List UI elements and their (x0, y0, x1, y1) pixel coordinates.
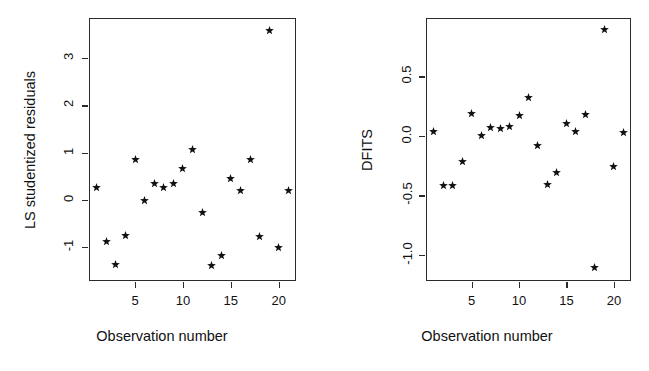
y-axis-title-right: DFITS (359, 129, 375, 171)
data-point (178, 164, 187, 173)
x-axis-title-left: Observation number (0, 328, 324, 344)
plot-frame-right (426, 18, 631, 281)
y-tick-label: 0.0 (396, 127, 416, 142)
y-tick-label: -0.5 (396, 186, 416, 201)
data-point (284, 186, 293, 195)
data-point (207, 261, 216, 270)
data-point (102, 237, 111, 246)
data-point (111, 260, 120, 269)
figure-canvas: 5101520-10123 Observation number LS stud… (0, 0, 649, 371)
data-point (505, 122, 514, 131)
data-point (477, 131, 486, 140)
y-tick-label: 2 (59, 96, 79, 111)
data-point (600, 25, 609, 34)
y-tick-label: 1 (59, 144, 79, 159)
y-tick (82, 58, 88, 59)
data-point (159, 183, 168, 192)
data-point (131, 155, 140, 164)
data-point (552, 168, 561, 177)
y-axis-title-left: LS studentized residuals (22, 71, 38, 229)
x-tick (566, 282, 567, 288)
data-point (581, 110, 590, 119)
x-tick (614, 282, 615, 288)
data-point (515, 111, 524, 120)
y-tick (82, 153, 88, 154)
data-point (448, 181, 457, 190)
data-point (543, 180, 552, 189)
data-point (590, 263, 599, 272)
y-tick-label: 3 (59, 49, 79, 64)
data-point (188, 145, 197, 154)
data-point (255, 232, 264, 241)
y-tick (419, 255, 425, 256)
data-point (429, 127, 438, 136)
x-tick-label: 15 (224, 293, 238, 308)
data-point (619, 128, 628, 137)
data-point (274, 243, 283, 252)
y-tick-label: -1 (59, 238, 79, 253)
data-point (533, 141, 542, 150)
y-tick (419, 195, 425, 196)
data-point (609, 162, 618, 171)
data-point (169, 179, 178, 188)
x-tick (183, 282, 184, 288)
x-tick-label: 20 (272, 293, 286, 308)
data-point (265, 26, 274, 35)
data-point (524, 93, 533, 102)
x-tick-label: 5 (468, 293, 475, 308)
data-point (226, 174, 235, 183)
data-point (458, 157, 467, 166)
data-point (140, 196, 149, 205)
x-tick (135, 282, 136, 288)
x-tick-label: 15 (559, 293, 573, 308)
x-tick-label: 20 (607, 293, 621, 308)
y-tick (419, 76, 425, 77)
y-tick (82, 247, 88, 248)
data-point (486, 123, 495, 132)
x-tick (279, 282, 280, 288)
y-tick (82, 200, 88, 201)
x-tick (472, 282, 473, 288)
x-tick (231, 282, 232, 288)
x-tick-label: 5 (131, 293, 138, 308)
data-point (92, 183, 101, 192)
panel-dfits: 5101520-1.0-0.50.00.5 Observation number… (325, 0, 649, 371)
data-point (571, 127, 580, 136)
data-point (246, 155, 255, 164)
data-point (217, 251, 226, 260)
data-point (496, 124, 505, 133)
data-point (198, 208, 207, 217)
x-tick-label: 10 (176, 293, 190, 308)
x-tick (519, 282, 520, 288)
y-tick (419, 136, 425, 137)
data-point (562, 119, 571, 128)
data-point (467, 109, 476, 118)
data-point (439, 181, 448, 190)
panel-ls-studentized-residuals: 5101520-10123 Observation number LS stud… (0, 0, 324, 371)
data-point (121, 231, 130, 240)
x-axis-title-right: Observation number (325, 328, 649, 344)
y-tick-label: 0.5 (396, 67, 416, 82)
data-point (236, 186, 245, 195)
y-tick-label: -1.0 (396, 246, 416, 261)
y-tick-label: 0 (59, 191, 79, 206)
x-tick-label: 10 (512, 293, 526, 308)
data-point (150, 179, 159, 188)
y-tick (82, 105, 88, 106)
